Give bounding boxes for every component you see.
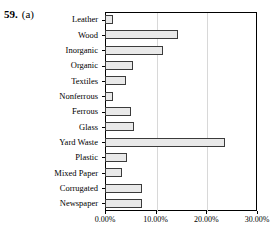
y-axis-tick-label: Mixed Paper [54, 169, 98, 178]
y-axis-tick-mark [102, 66, 105, 67]
y-axis-tick-label: Corrugated [60, 184, 98, 193]
y-axis-tick-mark [102, 81, 105, 82]
bar [105, 15, 113, 24]
bar [105, 61, 133, 70]
bar [105, 30, 178, 39]
y-axis-tick-row: Inorganic [0, 43, 102, 58]
bar-row [105, 12, 257, 27]
y-axis-tick-label: Organic [71, 61, 98, 70]
bar [105, 122, 134, 131]
figure-container: 59.(a) LeatherWoodInorganicOrganicTextil… [0, 0, 270, 230]
y-axis-tick-row: Yard Waste [0, 135, 102, 150]
bar-row [105, 43, 257, 58]
bar [105, 168, 122, 177]
x-axis-tick-label: 30.00% [245, 215, 270, 224]
x-axis-tick-mark [156, 211, 157, 214]
x-axis: 0.00%10.00%20.00%30.00% [105, 211, 257, 230]
y-axis-tick-label: Ferrous [72, 107, 98, 116]
y-axis-tick-mark [102, 20, 105, 21]
x-axis-tick-mark [206, 211, 207, 214]
bar-row [105, 119, 257, 134]
bar-row [105, 73, 257, 88]
y-axis-tick-row: Corrugated [0, 180, 102, 195]
x-axis-tick-mark [105, 211, 106, 214]
y-axis-tick-row: Ferrous [0, 104, 102, 119]
bar-row [105, 150, 257, 165]
y-axis-tick-label: Yard Waste [59, 138, 98, 147]
bar-row [105, 165, 257, 180]
y-axis-tick-label: Glass [79, 123, 98, 132]
y-axis-tick-mark [102, 173, 105, 174]
bar-row [105, 104, 257, 119]
y-axis-tick-row: Leather [0, 12, 102, 27]
bar [105, 46, 163, 55]
bar-row [105, 27, 257, 42]
y-axis-tick-label: Plastic [75, 153, 98, 162]
bar-row [105, 89, 257, 104]
bar [105, 92, 113, 101]
y-axis-tick-mark [102, 142, 105, 143]
y-axis-category-labels: LeatherWoodInorganicOrganicTextilesNonfe… [0, 12, 102, 211]
bar-row [105, 58, 257, 73]
bar [105, 107, 131, 116]
x-axis-tick-label: 10.00% [143, 215, 168, 224]
bar-rows [105, 12, 257, 211]
y-axis-tick-label: Leather [72, 15, 98, 24]
y-axis-tick-label: Inorganic [66, 46, 98, 55]
y-axis-tick-row: Plastic [0, 150, 102, 165]
y-axis-tick-row: Nonferrous [0, 89, 102, 104]
y-axis-tick-mark [102, 188, 105, 189]
y-axis-tick-mark [102, 50, 105, 51]
y-axis-tick-mark [102, 203, 105, 204]
y-axis-tick-row: Organic [0, 58, 102, 73]
bar [105, 76, 126, 85]
y-axis-tick-mark [102, 127, 105, 128]
bar-row [105, 196, 257, 211]
y-axis-tick-mark [102, 157, 105, 158]
y-axis-tick-label: Textiles [71, 77, 98, 86]
y-axis-tick-row: Glass [0, 119, 102, 134]
bar-row [105, 135, 257, 150]
y-axis-tick-mark [102, 96, 105, 97]
bar-row [105, 180, 257, 195]
x-axis-tick-mark [257, 211, 258, 214]
bar [105, 153, 127, 162]
bar [105, 199, 142, 208]
y-axis-tick-label: Newspaper [60, 199, 98, 208]
y-axis-tick-label: Wood [78, 31, 98, 40]
x-axis-tick-label: 20.00% [194, 215, 219, 224]
bar [105, 138, 225, 147]
y-axis-tick-row: Wood [0, 27, 102, 42]
y-axis-tick-mark [102, 112, 105, 113]
y-axis-tick-row: Mixed Paper [0, 165, 102, 180]
y-axis-tick-row: Newspaper [0, 196, 102, 211]
y-axis-tick-row: Textiles [0, 73, 102, 88]
y-axis-tick-mark [102, 35, 105, 36]
bar [105, 184, 142, 193]
x-axis-tick-label: 0.00% [95, 215, 116, 224]
y-axis-tick-label: Nonferrous [59, 92, 98, 101]
